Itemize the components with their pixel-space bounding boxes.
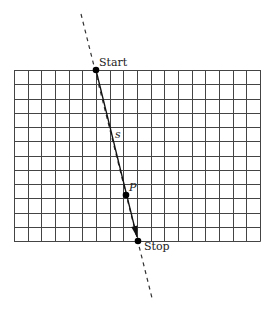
start-label: Start <box>99 56 128 69</box>
segment-label-s: s <box>115 128 121 141</box>
stop-point <box>135 238 142 245</box>
arrow-head-icon <box>131 226 137 237</box>
stop-label: Stop <box>144 240 170 253</box>
ray-segment <box>96 70 137 237</box>
point-p-label: P <box>128 181 137 194</box>
ray-grid-diagram: s Start P Stop <box>0 0 273 315</box>
grid <box>14 70 261 242</box>
